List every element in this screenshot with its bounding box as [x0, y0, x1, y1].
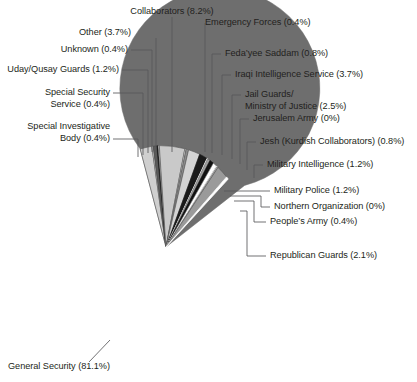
label-unknown: Unknown (0.4%)	[2, 44, 128, 55]
label-uday-qusay-guards: Uday/Qusay Guards (1.2%)	[0, 64, 119, 75]
label-military-intelligence: Military Intelligence (1.2%)	[267, 159, 417, 170]
label-other: Other (3.7%)	[2, 27, 131, 38]
label-peoples-army: People’s Army (0.4%)	[270, 216, 417, 227]
label-general-security: General Security (81.1%)	[8, 361, 188, 372]
label-emergency-forces: Emergency Forces (0.4%)	[205, 17, 365, 28]
label-northern-organization: Northern Organization (0%)	[274, 201, 417, 212]
label-special-investigative-body-line2: Body (0.4%)	[0, 133, 110, 144]
label-jesh-kurdish-collaborators: Jesh (Kurdish Collaborators) (0.8%)	[260, 136, 417, 147]
label-fedayee-saddam: Feda’yee Saddam (0.8%)	[225, 48, 385, 59]
label-iraqi-intelligence-service: Iraqi Intelligence Service (3.7%)	[235, 69, 415, 80]
label-republican-guards: Republican Guards (2.1%)	[270, 250, 417, 261]
leader-special-investigative-body	[113, 139, 138, 157]
label-special-security-service-line2: Service (0.4%)	[2, 99, 110, 110]
label-jail-guards-line2: Ministry of Justice (2.5%)	[245, 101, 415, 112]
label-special-security-service-line1: Special Security	[2, 87, 110, 98]
leader-northern-organization	[230, 196, 270, 207]
label-military-police: Military Police (1.2%)	[274, 185, 417, 196]
label-jerusalem-army: Jerusalem Army (0%)	[253, 113, 413, 124]
leader-republican-guards	[240, 211, 266, 256]
label-collaborators: Collaborators (8.2%)	[116, 6, 228, 17]
label-jail-guards-line1: Jail Guards/	[245, 89, 415, 100]
label-special-investigative-body-line1: Special Investigative	[0, 121, 110, 132]
leader-general-security	[89, 340, 110, 362]
